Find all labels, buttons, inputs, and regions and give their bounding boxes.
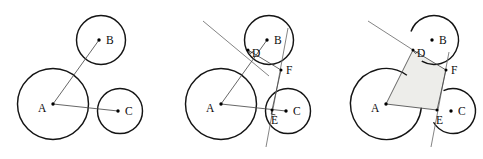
center-dot-c xyxy=(116,109,119,112)
label-b: B xyxy=(439,34,447,46)
shaded-region-adfe xyxy=(386,50,446,110)
center-dot-c xyxy=(284,109,287,112)
circle-c xyxy=(98,89,143,134)
label-c: C xyxy=(293,105,301,117)
label-e: E xyxy=(271,114,278,126)
tangent-line-through-D xyxy=(368,21,413,50)
label-f: F xyxy=(451,64,457,76)
panel-2: ABCDEF xyxy=(168,0,318,159)
center-dot-b xyxy=(97,38,100,41)
point-dot-d xyxy=(412,49,415,52)
center-dot-a xyxy=(219,102,222,105)
center-dot-b xyxy=(430,38,433,41)
panel-1: ABC xyxy=(0,0,150,159)
label-e: E xyxy=(436,114,443,126)
label-c: C xyxy=(458,105,466,117)
center-dot-b xyxy=(265,38,268,41)
label-a: A xyxy=(38,102,47,114)
label-f: F xyxy=(286,64,292,76)
point-dot-f xyxy=(280,69,283,72)
point-dot-d xyxy=(247,49,250,52)
center-dot-c xyxy=(449,109,452,112)
center-dot-a xyxy=(384,102,387,105)
panel-3: ABCDEF xyxy=(333,0,483,159)
label-b: B xyxy=(106,34,114,46)
label-d: D xyxy=(252,47,260,59)
radius-AB xyxy=(53,40,99,104)
point-dot-f xyxy=(445,69,448,72)
radius-AC xyxy=(53,104,118,111)
label-d: D xyxy=(417,47,425,59)
label-a: A xyxy=(206,102,215,114)
radius-AC xyxy=(221,104,286,111)
center-dot-a xyxy=(51,102,54,105)
point-dot-e xyxy=(271,109,274,112)
circle-b xyxy=(77,16,126,65)
label-b: B xyxy=(274,34,282,46)
three-circle-construction-figure: ABCABCDEFABCDEF xyxy=(0,0,483,159)
label-c: C xyxy=(125,105,133,117)
point-dot-e xyxy=(436,109,439,112)
label-a: A xyxy=(371,102,380,114)
